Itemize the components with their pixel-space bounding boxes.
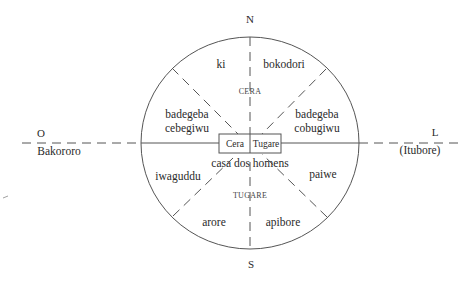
clan-bokodori: bokodori [263, 58, 305, 71]
clan-paiwe: paiwe [309, 168, 336, 181]
clan-badegeba-cobugiwu-line2: cobugiwu [294, 121, 339, 135]
clan-badegeba-cebegiwu-line2: cebegiwu [165, 121, 209, 135]
clan-badegeba-cebegiwu-line1: badegeba [165, 107, 209, 121]
clan-badegeba-cebegiwu: badegeba cebegiwu [165, 107, 209, 135]
north-label: N [246, 13, 254, 26]
stray-mark [3, 196, 8, 198]
west-label: O [37, 127, 45, 140]
box-tugare-label: Tugare [253, 138, 280, 150]
mens-house-label: casa dos homens [211, 157, 288, 170]
clan-badegeba-cobugiwu: badegeba cobugiwu [294, 107, 339, 135]
clan-apibore: apibore [266, 216, 300, 229]
clan-arore: arore [202, 216, 226, 229]
box-cera-label: Cera [226, 138, 244, 150]
west-outer-label: Bakororo [37, 145, 80, 158]
clan-iwaguddu: iwaguddu [155, 170, 200, 183]
clan-ki: ki [217, 58, 226, 71]
clan-badegeba-cobugiwu-line1: badegeba [294, 107, 339, 121]
east-label: L [432, 126, 439, 139]
east-outer-label: (Itubore) [400, 144, 441, 157]
south-label: S [248, 258, 254, 271]
south-half-label: TUGARE [233, 189, 267, 202]
north-half-label: CERA [239, 85, 262, 98]
